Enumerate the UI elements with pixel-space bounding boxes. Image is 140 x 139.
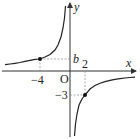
point-minus4-b — [38, 57, 42, 61]
curve-branch-left — [5, 6, 66, 65]
hyperbola-graph: y x b 2 O −4 −3 — [0, 0, 140, 139]
origin-label: O — [60, 72, 69, 86]
two-label: 2 — [82, 57, 88, 71]
point-2-minus3 — [83, 93, 87, 97]
minus4-label: −4 — [31, 73, 44, 87]
b-label: b — [73, 52, 79, 66]
minus3-label: −3 — [55, 88, 68, 102]
y-axis-label: y — [73, 0, 80, 14]
curve-branch-right — [75, 77, 136, 136]
x-axis-label: x — [125, 56, 132, 70]
